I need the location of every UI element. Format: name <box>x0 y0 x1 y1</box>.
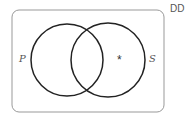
circle-s <box>71 23 145 97</box>
set-label-s: S <box>149 53 156 64</box>
circle-p <box>31 24 103 96</box>
universe-box <box>12 10 164 112</box>
corner-label: DD <box>170 3 184 14</box>
asterisk-marker: * <box>117 53 122 67</box>
set-label-p: P <box>19 53 26 64</box>
venn-canvas <box>0 0 193 118</box>
